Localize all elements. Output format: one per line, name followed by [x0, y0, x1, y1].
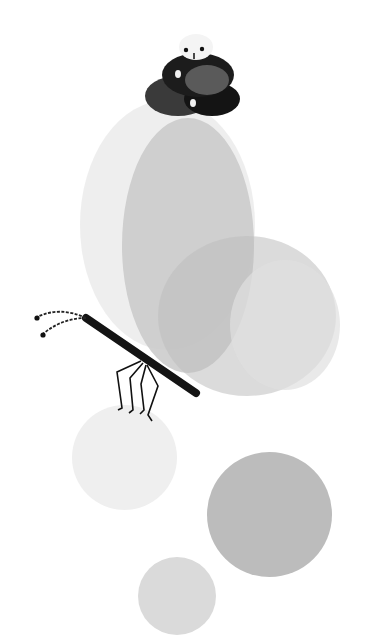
stick-insect-icon [0, 0, 367, 584]
illustration-scene: Ink illustration: snail on wings with in… [0, 0, 367, 584]
